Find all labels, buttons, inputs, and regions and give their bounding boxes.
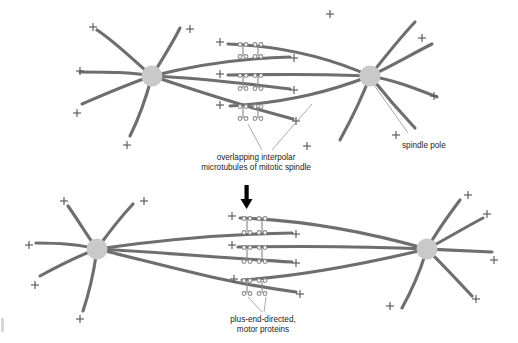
spindle-pole-right-bottom: [417, 239, 438, 260]
label-motor-line2: motor proteins: [237, 325, 289, 334]
astral-microtubules-left-top: [80, 28, 180, 136]
label-interpolar-line2: microtubules of mitotic spindle: [201, 163, 311, 172]
spindle-pole-left-bottom: [87, 239, 108, 260]
interpolar-microtubules-from-right-top: [228, 44, 370, 106]
astral-microtubules-left-bottom: [36, 204, 133, 311]
spindle-diagram: overlapping interpolar microtubules of m…: [0, 0, 518, 343]
panel-before-elongation: overlapping interpolar microtubules of m…: [73, 10, 446, 172]
spindle-pole-left-top: [142, 66, 163, 87]
spindle-pole-right-top: [360, 66, 381, 87]
panel-after-elongation: plus-end-directed, motor proteins: [25, 191, 498, 334]
label-motor-line1: plus-end-directed,: [230, 315, 296, 324]
interpolar-microtubules-from-left-top: [152, 57, 293, 119]
edge-artifact: [1, 318, 4, 332]
astral-microtubules-right-bottom: [402, 200, 492, 308]
leader-lines-motor-proteins: [248, 297, 266, 312]
transition-arrow-icon: [241, 185, 253, 209]
leader-line-spindle-pole: [374, 85, 408, 133]
label-interpolar-line1: overlapping interpolar: [217, 153, 296, 162]
label-spindle-pole: spindle pole: [402, 141, 446, 150]
